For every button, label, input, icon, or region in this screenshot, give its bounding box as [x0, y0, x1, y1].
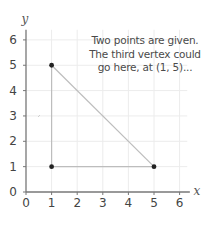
y-tick-label: 1 [9, 160, 17, 174]
stray-mark [38, 115, 40, 117]
x-tick-label: 5 [150, 196, 158, 210]
data-point [152, 164, 157, 169]
annotation-line-1: Two points are given. [82, 34, 208, 48]
data-point [49, 164, 54, 169]
y-tick-label: 2 [9, 134, 17, 148]
annotation-line-2: The third vertex could [82, 48, 208, 62]
coordinate-plane-figure: 01234560123456xy Two points are given. T… [0, 0, 215, 225]
x-tick-label: 0 [22, 196, 30, 210]
y-tick-label: 4 [9, 84, 17, 98]
y-axis-label: y [21, 12, 29, 26]
data-point [49, 63, 54, 68]
y-tick-label: 0 [9, 185, 17, 199]
x-tick-label: 1 [48, 196, 56, 210]
x-tick-label: 4 [125, 196, 133, 210]
y-tick-label: 3 [9, 109, 17, 123]
y-tick-label: 6 [9, 33, 17, 47]
x-tick-label: 6 [176, 196, 184, 210]
x-axis-label: x [194, 184, 201, 198]
annotation-line-3: go here, at (1, 5)... [82, 61, 208, 75]
annotation-text: Two points are given. The third vertex c… [82, 34, 208, 75]
y-tick-label: 5 [9, 58, 17, 72]
x-tick-label: 3 [99, 196, 107, 210]
x-tick-label: 2 [73, 196, 81, 210]
